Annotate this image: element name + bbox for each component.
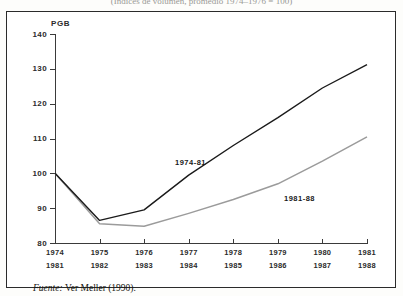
series-label-1981-88: 1981-88 <box>284 194 315 203</box>
figure-title-text: (Indices de volumen, promedio 1974–1976 … <box>111 0 292 6</box>
source-text: Ver Meller (1990). <box>65 283 136 293</box>
chart-series-svg <box>7 12 397 289</box>
series-line-1974-81 <box>55 137 367 227</box>
figure-title-fragment: (Indices de volumen, promedio 1974–1976 … <box>0 0 403 9</box>
figure-page: (Indices de volumen, promedio 1974–1976 … <box>0 0 403 296</box>
source-note: Fuente: Ver Meller (1990). <box>33 283 136 293</box>
figure-frame: PGB 8090100110120130140 1974197519761977… <box>6 11 396 288</box>
series-line-1981-88 <box>55 65 367 221</box>
chart-plot-area: PGB 8090100110120130140 1974197519761977… <box>7 12 397 289</box>
series-label-1974-81: 1974-81 <box>175 158 206 167</box>
source-prefix: Fuente: <box>33 283 63 293</box>
